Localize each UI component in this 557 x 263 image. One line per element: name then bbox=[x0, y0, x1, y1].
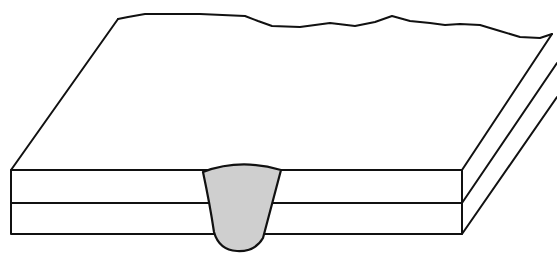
weld-nugget bbox=[203, 164, 281, 251]
top-plate-right-edge bbox=[462, 34, 552, 170]
plate-interface-side-edge bbox=[462, 63, 557, 203]
welded-plates-diagram bbox=[0, 0, 557, 263]
bottom-plate-side-edge bbox=[462, 97, 557, 234]
top-plate-left-edge bbox=[11, 19, 118, 170]
break-line bbox=[118, 14, 552, 38]
